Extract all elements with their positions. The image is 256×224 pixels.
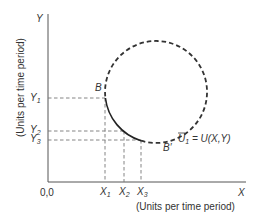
curve-label: U1 = U(X,Y): [178, 133, 231, 145]
point-b-prime-label: B′: [163, 142, 173, 153]
x-axis-label: (Units per time period): [136, 201, 235, 212]
origin-label: 0,0: [40, 187, 54, 198]
x-tick-2: X2: [118, 186, 130, 198]
x-axis-letter: X: [237, 187, 245, 198]
y-tick-1: Y1: [30, 92, 41, 104]
x-tick-3: X3: [136, 186, 148, 198]
indifference-curve-solid-segment: [105, 98, 141, 141]
x-tick-1: X1: [99, 186, 111, 198]
y-axis-label: (Units per time period): [15, 38, 26, 137]
indifference-curve-diagram: Y X (Units per time period) (Units per t…: [0, 0, 256, 224]
point-b-label: B: [95, 82, 102, 93]
y-axis-letter: Y: [36, 13, 44, 24]
